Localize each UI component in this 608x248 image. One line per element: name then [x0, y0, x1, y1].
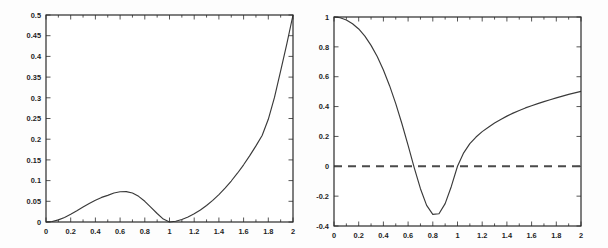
axes-right-plot: 00.20.40.60.811.21.41.61.82-0.4-0.200.20… — [316, 13, 583, 240]
x-tick-label: 0.8 — [428, 231, 438, 240]
y-tick-label: 0.5 — [31, 11, 41, 20]
x-tick-label: 1.6 — [238, 227, 248, 236]
axes-left-plot: 00.20.40.60.811.21.41.61.8200.050.10.150… — [27, 11, 295, 236]
x-tick-label: 1 — [167, 227, 171, 236]
dual-plot-figure: 00.20.40.60.811.21.41.61.8200.050.10.150… — [0, 0, 608, 248]
y-tick-label: 0 — [325, 162, 329, 171]
y-tick-label: 0.2 — [31, 135, 41, 144]
y-tick-label: 0.1 — [31, 176, 41, 185]
x-tick-label: 2 — [579, 231, 583, 240]
y-tick-label: 1 — [325, 13, 329, 22]
y-tick-label: 0.8 — [319, 43, 329, 52]
plot-background-left-plot — [46, 15, 293, 222]
y-tick-label: 0.15 — [27, 156, 41, 165]
x-tick-label: 1.8 — [551, 231, 561, 240]
figure-container: 00.20.40.60.811.21.41.61.8200.050.10.150… — [0, 0, 608, 248]
x-tick-label: 1.4 — [502, 231, 513, 240]
x-tick-label: 0.2 — [354, 231, 364, 240]
y-tick-label: 0.2 — [319, 132, 329, 141]
y-tick-label: 0.05 — [27, 197, 41, 206]
x-tick-label: 1.8 — [263, 227, 273, 236]
y-tick-label: 0.4 — [319, 102, 330, 111]
x-tick-label: 1.2 — [477, 231, 487, 240]
x-tick-label: 0 — [44, 227, 48, 236]
x-tick-label: 0.2 — [66, 227, 76, 236]
y-tick-label: 0 — [37, 218, 41, 227]
x-tick-label: 1.6 — [526, 231, 536, 240]
y-tick-label: -0.2 — [316, 192, 329, 201]
x-tick-label: 0.8 — [140, 227, 150, 236]
x-tick-label: 1 — [455, 231, 459, 240]
y-tick-label: 0.25 — [27, 114, 41, 123]
x-tick-label: 0.4 — [90, 227, 101, 236]
plot-background-right-plot — [334, 17, 581, 226]
y-tick-label: 0.6 — [319, 72, 329, 81]
y-tick-label: 0.45 — [27, 31, 41, 40]
y-tick-label: -0.4 — [316, 222, 330, 231]
y-tick-label: 0.4 — [31, 52, 42, 61]
x-tick-label: 0.4 — [378, 231, 389, 240]
x-tick-label: 0 — [332, 231, 336, 240]
x-tick-label: 0.6 — [403, 231, 413, 240]
x-tick-label: 1.2 — [189, 227, 199, 236]
y-tick-label: 0.3 — [31, 94, 41, 103]
y-tick-label: 0.35 — [27, 73, 41, 82]
x-tick-label: 2 — [291, 227, 295, 236]
x-tick-label: 1.4 — [214, 227, 225, 236]
x-tick-label: 0.6 — [115, 227, 125, 236]
